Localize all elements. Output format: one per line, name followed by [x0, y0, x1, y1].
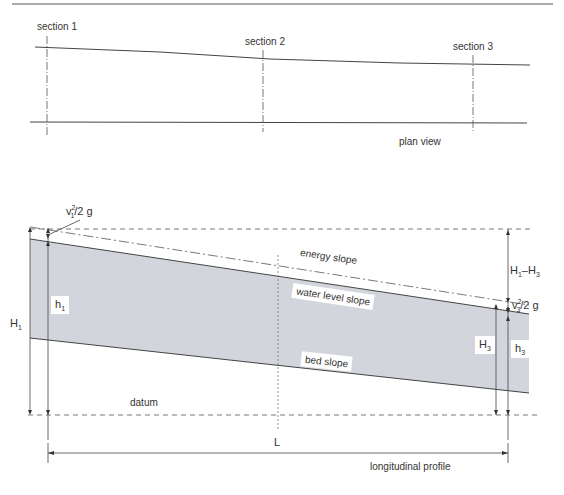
section-3-label: section 3: [453, 41, 493, 52]
h3-label: h3: [511, 340, 529, 358]
plan-bank-lower: [30, 122, 527, 123]
longitudinal-profile: [28, 220, 540, 463]
v1-leader: [48, 220, 80, 235]
H3-label: H3: [475, 336, 495, 354]
H1-label: H1: [10, 317, 22, 331]
section-1-label: section 1: [37, 21, 77, 32]
H1-minus-H3-label: H1–H3: [510, 264, 540, 278]
water-body: [30, 239, 529, 393]
v1-head-label: v21/2 g: [66, 204, 93, 219]
longitudinal-profile-caption: longitudinal profile: [370, 461, 451, 472]
v3-head-label: v23/2 g: [512, 298, 539, 313]
datum-label: datum: [130, 397, 158, 408]
length-label: L: [274, 436, 280, 448]
section-2-label: section 2: [245, 36, 285, 47]
h1-label: h1: [51, 296, 69, 314]
plan-view-caption: plan view: [399, 136, 441, 147]
diagram-canvas: [0, 0, 564, 495]
